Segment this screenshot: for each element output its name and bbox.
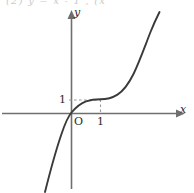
math-figure: (2) y = x - 1 , (x y x 1 O 1	[0, 0, 194, 193]
origin-label: O	[74, 116, 83, 127]
cubic-function-plot	[0, 0, 194, 193]
y-axis-tick-label-1: 1	[59, 94, 66, 105]
x-axis-label: x	[180, 104, 186, 115]
y-axis-label: y	[74, 7, 80, 18]
x-axis-tick-label-1: 1	[97, 116, 104, 127]
